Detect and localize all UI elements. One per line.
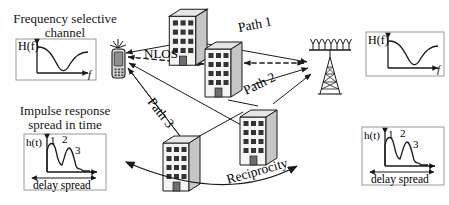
building-middle xyxy=(205,42,242,97)
ray-b4-to-bs xyxy=(273,74,311,104)
peak-label-1: 1 xyxy=(50,134,56,146)
building-lower-right xyxy=(240,110,277,165)
diagram-svg: H(f) f h(t) 1 2 3 t delay spread H(f) f … xyxy=(0,0,449,205)
peak-label-1: 1 xyxy=(388,128,394,140)
hf-ylabel: H(f) xyxy=(368,33,389,47)
figure-canvas: Frequency selective channel Impulse resp… xyxy=(0,0,449,205)
ht-ylabel: h(t) xyxy=(364,129,380,142)
peak-label-2: 2 xyxy=(62,133,68,145)
ht-ylabel: h(t) xyxy=(26,136,42,149)
peak-label-3: 3 xyxy=(75,144,81,156)
ray-mid-to-b4 xyxy=(228,100,258,106)
path3-label: Path 3 xyxy=(145,95,178,131)
path2-label: Path 2 xyxy=(241,69,278,97)
nlos-label: NLOS xyxy=(144,46,178,61)
peak-label-3: 3 xyxy=(413,138,419,150)
base-station xyxy=(309,39,352,94)
mobile-handset xyxy=(110,39,126,78)
hf-ylabel: H(f) xyxy=(18,39,39,53)
delay-spread-label: delay spread xyxy=(33,179,91,192)
ray-b3-to-b4 xyxy=(196,112,243,138)
peak-label-2: 2 xyxy=(400,127,406,139)
path1-label: Path 1 xyxy=(237,14,273,35)
delay-spread-label: delay spread xyxy=(371,173,429,186)
